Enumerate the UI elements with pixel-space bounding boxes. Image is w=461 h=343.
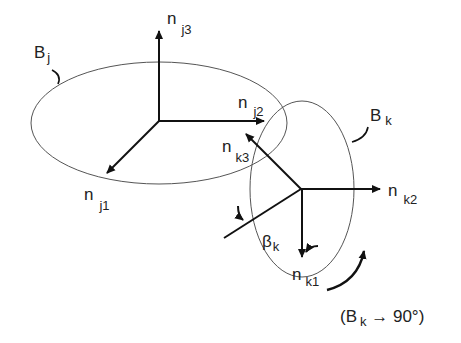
- axis-nj1: [107, 121, 159, 173]
- annotation-bk-90: (Bk → 90°): [340, 307, 424, 329]
- label-bj: Bj: [34, 43, 50, 65]
- diagram-canvas: Bj nj3 nj2 nj1 Bk nk3 nk2 nk1 βk (Bk → 9…: [0, 0, 461, 343]
- label-beta-k: βk: [262, 232, 280, 254]
- rotation-arrow-icon: [327, 251, 364, 290]
- rotation-hook-beta-icon: [238, 206, 243, 220]
- label-nj3: nj3: [167, 9, 192, 37]
- leader-bj: [52, 70, 59, 84]
- label-nk2: nk2: [388, 181, 417, 207]
- label-nk1: nk1: [292, 265, 319, 289]
- axis-nk3: [246, 134, 301, 189]
- label-nj2: nj2: [238, 93, 264, 119]
- rotation-hook-nk1-icon: [306, 246, 318, 252]
- label-nk3: nk3: [222, 137, 249, 165]
- leader-bk: [352, 127, 368, 142]
- label-nj1: nj1: [84, 185, 110, 213]
- rotation-axis-beta: [224, 189, 301, 238]
- label-bk: Bk: [370, 106, 392, 128]
